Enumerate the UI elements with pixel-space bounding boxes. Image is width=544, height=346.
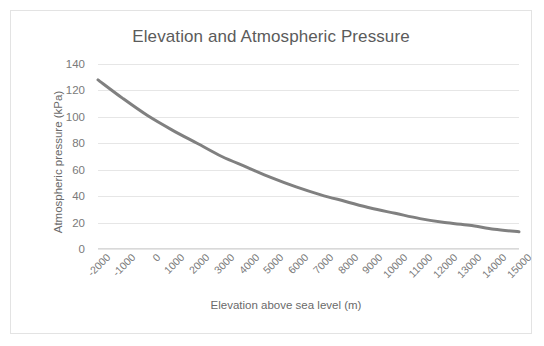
chart-title: Elevation and Atmospheric Pressure [11, 27, 531, 47]
plot-area [98, 64, 519, 249]
y-axis-tick-label: 60 [72, 164, 85, 176]
gridline [98, 249, 519, 250]
chart-container: Elevation and Atmospheric Pressure Atmos… [10, 10, 532, 334]
pressure-curve-path [98, 80, 519, 232]
y-axis-tick-label: 20 [72, 217, 85, 229]
pressure-curve [98, 64, 519, 249]
y-axis-tick-label: 120 [66, 84, 85, 96]
y-axis-tick-label: 0 [79, 243, 85, 255]
y-axis-tick-label: 80 [72, 137, 85, 149]
y-axis-tick-label: 140 [66, 58, 85, 70]
y-axis-tick-label: 100 [66, 111, 85, 123]
x-axis-title: Elevation above sea level (m) [71, 299, 501, 311]
y-axis-tick-label: 40 [72, 190, 85, 202]
x-axis-tick-labels: -2000-1000010002000300040005000600070008… [98, 251, 519, 297]
y-axis-tick-labels: 020406080100120140 [51, 64, 91, 249]
